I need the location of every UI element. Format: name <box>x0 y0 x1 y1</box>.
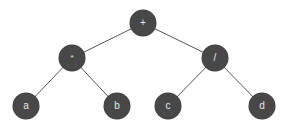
node-label: / <box>214 53 217 63</box>
node-label: + <box>140 18 146 28</box>
node-leaf-d: d <box>249 93 275 119</box>
node-label: b <box>114 101 120 111</box>
node-label: c <box>166 101 171 111</box>
node-label: a <box>23 101 29 111</box>
node-root-plus: + <box>130 10 156 36</box>
node-leaf-b: b <box>104 93 130 119</box>
node-label: * <box>70 54 73 62</box>
node-leaf-a: a <box>13 93 39 119</box>
node-label: d <box>259 101 265 111</box>
node-divide: / <box>202 45 228 71</box>
node-leaf-c: c <box>155 93 181 119</box>
node-multiply: * <box>59 45 85 71</box>
